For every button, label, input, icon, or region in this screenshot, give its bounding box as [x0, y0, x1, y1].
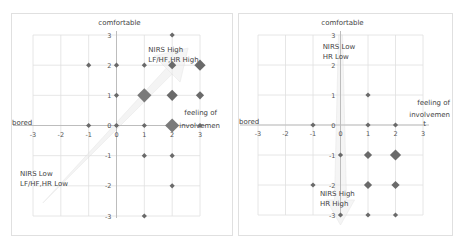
x-tick-label: 1 — [366, 130, 370, 138]
x-tick-label: -2 — [58, 131, 64, 139]
x-tick-label: -1 — [85, 131, 91, 139]
left-xlabel-involvement-1: feeling of — [184, 109, 217, 117]
x-tick-label: 3 — [198, 131, 202, 139]
annotation-lfhf-hr-low: LF/HF,HR Low — [20, 180, 68, 188]
y-tick-label: 3 — [107, 32, 111, 40]
annotation-nirs-low: NIRS Low — [323, 43, 356, 51]
right-xlabel-involvement-1: feeling of — [417, 99, 450, 107]
right-chart: -3-2-10123321-1-2-30comfortableboredfeel… — [239, 14, 453, 236]
charts-canvas: -3-2-10123321-1-2-30comfortableboredfeel… — [0, 0, 459, 252]
y-tick-label: 2 — [107, 62, 111, 70]
x-tick-label: 0 — [338, 130, 342, 138]
x-tick-label: 0 — [114, 131, 118, 139]
y-tick-label: 0 — [107, 122, 111, 130]
annotation-hr-low: HR Low — [323, 53, 349, 61]
x-tick-label: 2 — [393, 130, 397, 138]
y-tick-label: 1 — [107, 92, 111, 100]
right-xlabel-bored: bored — [239, 118, 259, 126]
right-ylabel-comfortable: comfortable — [321, 19, 363, 27]
y-tick-label: 1 — [331, 92, 335, 100]
y-tick-label: -2 — [105, 182, 111, 190]
annotation-nirs-high: NIRS High — [320, 190, 355, 198]
x-tick-label: -3 — [255, 130, 261, 138]
x-tick-label: 3 — [421, 130, 425, 138]
left-ylabel-comfortable: comfortable — [98, 19, 140, 27]
annotation-nirs-low: NIRS Low — [20, 170, 53, 178]
y-tick-label: -3 — [329, 212, 335, 220]
annotation-hr-high: HR High — [320, 200, 348, 208]
y-tick-label: 3 — [331, 32, 335, 40]
left-chart: -3-2-10123321-1-2-30comfortableboredfeel… — [12, 14, 233, 236]
y-tick-label: -3 — [105, 213, 111, 221]
y-tick-label: -2 — [329, 182, 335, 190]
y-tick-label: 0 — [331, 122, 335, 130]
left-xlabel-bored: bored — [12, 119, 32, 127]
x-tick-label: -3 — [30, 131, 36, 139]
x-tick-label: -1 — [310, 130, 316, 138]
x-tick-label: -2 — [282, 130, 288, 138]
y-tick-label: -1 — [105, 152, 111, 160]
y-tick-label: -1 — [329, 152, 335, 160]
right-xlabel-involvement-3: t — [423, 120, 426, 128]
right-xlabel-involvement-2: involvemen — [409, 111, 450, 119]
y-tick-label: 2 — [331, 62, 335, 70]
annotation-nirs-high: NIRS High — [148, 46, 183, 54]
x-tick-label: 1 — [142, 131, 146, 139]
